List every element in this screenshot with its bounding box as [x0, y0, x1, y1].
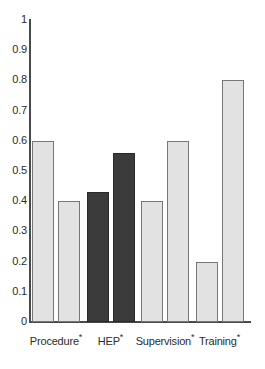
- category-label-text: Training: [199, 335, 237, 347]
- y-axis-tick-labels: 10.90.80.70.60.50.40.30.20.10: [0, 0, 27, 369]
- y-axis-tick-label: 0.8: [1, 74, 27, 85]
- y-axis-tick-label: 0.5: [1, 165, 27, 176]
- plot-area: [31, 20, 249, 322]
- y-axis-tick-label: 0.4: [1, 195, 27, 206]
- bar-training-2: [222, 80, 244, 322]
- y-axis-tick-label: 0.2: [1, 256, 27, 267]
- bar-procedure-2: [58, 201, 80, 322]
- y-axis-tick-label: 1: [1, 14, 27, 25]
- bar-training-1: [196, 262, 218, 322]
- y-axis-tick-label: 0.9: [1, 44, 27, 55]
- y-axis-tick-label: 0.6: [1, 135, 27, 146]
- y-axis-tick-label: 0: [1, 316, 27, 327]
- bar-procedure-1: [32, 141, 54, 322]
- bar-supervision-1: [141, 201, 163, 322]
- significance-marker: *: [237, 332, 240, 342]
- bar-chart: 10.90.80.70.60.50.40.30.20.10 Procedure*…: [0, 0, 264, 369]
- bar-supervision-2: [167, 141, 189, 322]
- x-axis-category-labels: Procedure*HEP*Supervision*Training*: [31, 333, 253, 355]
- x-axis-category-label-training: Training*: [170, 333, 265, 348]
- bar-hep-2: [113, 153, 135, 322]
- y-axis-tick-label: 0.7: [1, 105, 27, 116]
- y-axis-tick-label: 0.3: [1, 225, 27, 236]
- y-axis-tick-label: 0.1: [1, 286, 27, 297]
- bar-hep-1: [87, 192, 109, 322]
